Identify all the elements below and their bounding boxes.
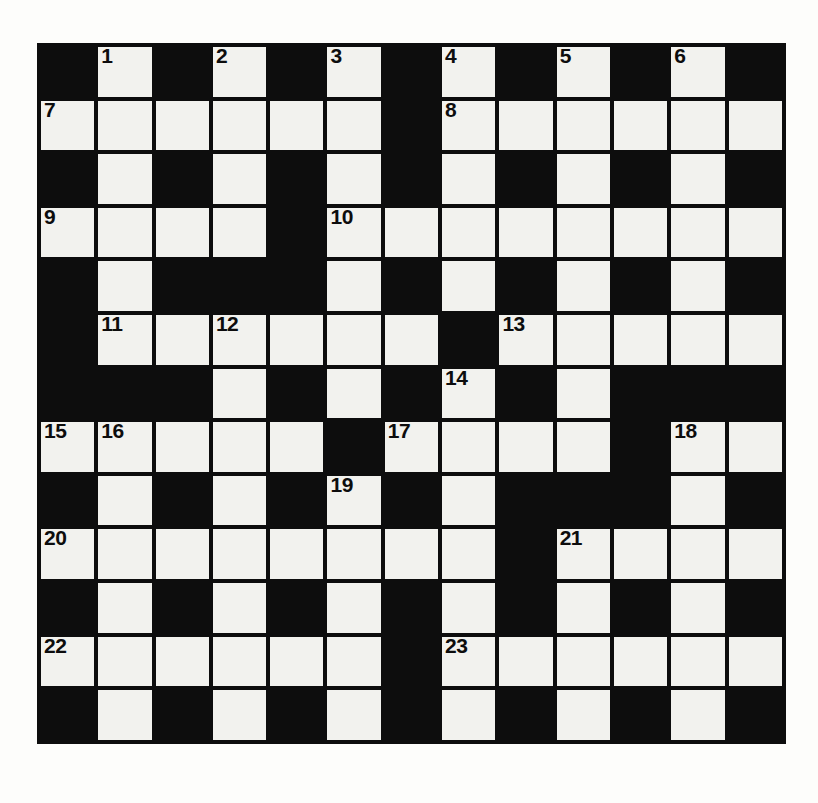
crossword-cell-light[interactable] xyxy=(440,206,497,260)
crossword-cell-light[interactable] xyxy=(325,313,382,367)
crossword-cell-light[interactable] xyxy=(440,420,497,474)
crossword-cell-light[interactable]: 10 xyxy=(325,206,382,260)
crossword-cell-light[interactable]: 15 xyxy=(39,420,96,474)
crossword-cell-light[interactable] xyxy=(727,527,784,581)
crossword-cell-light[interactable]: 16 xyxy=(96,420,153,474)
crossword-cell-light[interactable] xyxy=(612,99,669,153)
crossword-cell-light[interactable] xyxy=(669,581,726,635)
crossword-cell-light[interactable] xyxy=(727,99,784,153)
crossword-cell-light[interactable] xyxy=(555,367,612,421)
crossword-cell-light[interactable] xyxy=(154,527,211,581)
crossword-cell-light[interactable] xyxy=(440,688,497,742)
crossword-cell-light[interactable]: 11 xyxy=(96,313,153,367)
crossword-cell-light[interactable] xyxy=(96,527,153,581)
crossword-cell-light[interactable] xyxy=(669,527,726,581)
crossword-cell-light[interactable] xyxy=(154,206,211,260)
crossword-cell-light[interactable] xyxy=(325,367,382,421)
crossword-cell-light[interactable] xyxy=(325,581,382,635)
crossword-grid[interactable]: 1234567891011121314151617181920212223 xyxy=(37,43,786,744)
crossword-cell-light[interactable] xyxy=(325,152,382,206)
crossword-cell-light[interactable] xyxy=(383,206,440,260)
crossword-cell-light[interactable]: 3 xyxy=(325,45,382,99)
crossword-cell-light[interactable] xyxy=(211,635,268,689)
crossword-cell-light[interactable] xyxy=(555,635,612,689)
crossword-cell-light[interactable] xyxy=(555,688,612,742)
crossword-cell-light[interactable]: 14 xyxy=(440,367,497,421)
crossword-cell-light[interactable] xyxy=(154,420,211,474)
crossword-cell-light[interactable] xyxy=(727,635,784,689)
crossword-cell-light[interactable] xyxy=(96,206,153,260)
crossword-cell-light[interactable] xyxy=(211,152,268,206)
crossword-cell-light[interactable] xyxy=(211,206,268,260)
crossword-cell-light[interactable] xyxy=(211,420,268,474)
crossword-cell-light[interactable] xyxy=(497,99,554,153)
crossword-cell-light[interactable] xyxy=(727,420,784,474)
crossword-cell-light[interactable] xyxy=(325,688,382,742)
crossword-cell-light[interactable] xyxy=(669,688,726,742)
crossword-cell-light[interactable]: 20 xyxy=(39,527,96,581)
crossword-cell-light[interactable]: 7 xyxy=(39,99,96,153)
crossword-cell-light[interactable] xyxy=(268,420,325,474)
crossword-cell-light[interactable] xyxy=(211,581,268,635)
crossword-cell-light[interactable] xyxy=(555,313,612,367)
crossword-cell-light[interactable] xyxy=(555,152,612,206)
crossword-cell-light[interactable] xyxy=(211,474,268,528)
crossword-cell-light[interactable] xyxy=(96,688,153,742)
crossword-cell-light[interactable]: 18 xyxy=(669,420,726,474)
crossword-cell-light[interactable] xyxy=(96,581,153,635)
crossword-cell-light[interactable]: 6 xyxy=(669,45,726,99)
crossword-cell-light[interactable] xyxy=(325,527,382,581)
crossword-cell-light[interactable] xyxy=(440,474,497,528)
crossword-cell-light[interactable]: 21 xyxy=(555,527,612,581)
crossword-cell-light[interactable] xyxy=(211,367,268,421)
crossword-cell-light[interactable] xyxy=(96,635,153,689)
crossword-cell-light[interactable] xyxy=(669,474,726,528)
crossword-cell-light[interactable] xyxy=(669,206,726,260)
crossword-cell-light[interactable] xyxy=(154,635,211,689)
crossword-cell-light[interactable] xyxy=(440,152,497,206)
crossword-cell-light[interactable] xyxy=(669,99,726,153)
crossword-cell-light[interactable] xyxy=(440,581,497,635)
crossword-cell-light[interactable] xyxy=(96,99,153,153)
crossword-cell-light[interactable] xyxy=(383,527,440,581)
crossword-cell-light[interactable] xyxy=(612,527,669,581)
crossword-cell-light[interactable] xyxy=(669,152,726,206)
crossword-cell-light[interactable] xyxy=(497,206,554,260)
crossword-cell-light[interactable]: 22 xyxy=(39,635,96,689)
crossword-cell-light[interactable] xyxy=(96,474,153,528)
crossword-cell-light[interactable] xyxy=(555,99,612,153)
crossword-cell-light[interactable] xyxy=(727,313,784,367)
crossword-cell-light[interactable] xyxy=(96,259,153,313)
crossword-cell-light[interactable] xyxy=(555,259,612,313)
crossword-cell-light[interactable]: 8 xyxy=(440,99,497,153)
crossword-cell-light[interactable] xyxy=(555,581,612,635)
crossword-cell-light[interactable] xyxy=(325,99,382,153)
crossword-cell-light[interactable] xyxy=(612,313,669,367)
crossword-cell-light[interactable]: 9 xyxy=(39,206,96,260)
crossword-cell-light[interactable] xyxy=(268,635,325,689)
crossword-cell-light[interactable]: 13 xyxy=(497,313,554,367)
crossword-cell-light[interactable] xyxy=(383,313,440,367)
crossword-cell-light[interactable] xyxy=(211,688,268,742)
crossword-cell-light[interactable] xyxy=(325,259,382,313)
crossword-cell-light[interactable] xyxy=(96,152,153,206)
crossword-cell-light[interactable] xyxy=(669,313,726,367)
crossword-cell-light[interactable] xyxy=(154,313,211,367)
crossword-cell-light[interactable] xyxy=(211,99,268,153)
crossword-cell-light[interactable]: 19 xyxy=(325,474,382,528)
crossword-cell-light[interactable] xyxy=(440,259,497,313)
crossword-cell-light[interactable]: 12 xyxy=(211,313,268,367)
crossword-cell-light[interactable] xyxy=(497,420,554,474)
crossword-cell-light[interactable]: 5 xyxy=(555,45,612,99)
crossword-cell-light[interactable] xyxy=(325,635,382,689)
crossword-cell-light[interactable] xyxy=(612,206,669,260)
crossword-cell-light[interactable] xyxy=(497,635,554,689)
crossword-cell-light[interactable] xyxy=(440,527,497,581)
crossword-cell-light[interactable] xyxy=(555,420,612,474)
crossword-cell-light[interactable] xyxy=(268,99,325,153)
crossword-cell-light[interactable] xyxy=(268,527,325,581)
crossword-cell-light[interactable] xyxy=(555,206,612,260)
crossword-cell-light[interactable]: 2 xyxy=(211,45,268,99)
crossword-cell-light[interactable] xyxy=(612,635,669,689)
crossword-cell-light[interactable]: 4 xyxy=(440,45,497,99)
